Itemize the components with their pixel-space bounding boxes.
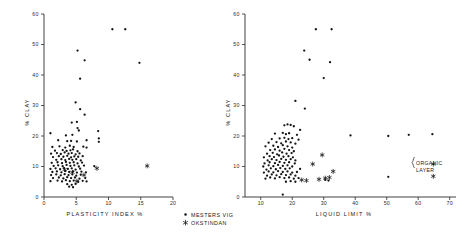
data-point — [138, 62, 140, 64]
organic-layer-annotation: ORGANIC LAYER — [412, 157, 443, 173]
data-point — [58, 145, 60, 147]
data-point — [76, 49, 78, 51]
data-point — [64, 146, 66, 148]
data-point — [263, 171, 265, 173]
data-point — [55, 173, 57, 175]
data-point — [68, 171, 70, 173]
data-point — [280, 142, 282, 144]
data-point — [56, 179, 58, 181]
data-point — [282, 156, 284, 158]
data-point — [97, 130, 99, 132]
data-point — [283, 177, 285, 179]
annotation-brace — [412, 157, 415, 168]
x-ticks-right: 10203040506070 — [258, 197, 453, 206]
data-point — [286, 164, 288, 166]
x-tick-label: 10 — [105, 200, 111, 206]
data-point — [124, 28, 126, 30]
data-point — [305, 178, 309, 182]
data-point — [80, 174, 82, 176]
y-tick-label: 40 — [32, 72, 38, 78]
y-tick-label: 40 — [233, 72, 239, 78]
data-point — [111, 28, 113, 30]
data-point — [323, 176, 327, 180]
data-point — [267, 142, 269, 144]
data-point — [53, 165, 55, 167]
data-point — [290, 180, 292, 182]
data-point — [98, 141, 100, 143]
data-point — [76, 127, 78, 129]
data-point — [288, 161, 290, 163]
data-point — [85, 139, 87, 141]
data-point — [60, 171, 62, 173]
data-point — [78, 152, 80, 154]
y-tick-label: 10 — [233, 163, 239, 169]
data-point — [56, 152, 58, 154]
data-point — [294, 162, 296, 164]
data-point — [286, 145, 288, 147]
panel-plasticity-index: 0102030405060 05101520 % CLAY PLASTICITY… — [0, 0, 234, 238]
data-point — [66, 155, 68, 157]
y-tick-label: 30 — [32, 102, 38, 108]
data-point — [285, 140, 287, 142]
data-point — [66, 176, 68, 178]
data-point — [71, 152, 73, 154]
annotation-line2: LAYER — [416, 167, 434, 173]
data-point — [79, 167, 81, 169]
data-point — [287, 155, 289, 157]
data-point — [60, 174, 62, 176]
data-point — [73, 179, 75, 181]
data-point — [297, 177, 299, 179]
data-point — [274, 148, 276, 150]
data-point — [78, 129, 80, 131]
data-point — [70, 140, 72, 142]
data-point — [71, 134, 73, 136]
plot-plasticity-index: 0102030405060 05101520 % CLAY PLASTICITY… — [0, 0, 234, 238]
data-point — [286, 170, 288, 172]
data-point — [271, 138, 273, 140]
data-point — [83, 114, 85, 116]
data-point — [274, 132, 276, 134]
y-tick-label: 50 — [233, 41, 239, 47]
data-point — [285, 174, 287, 176]
data-point — [303, 49, 305, 51]
data-point — [62, 156, 64, 158]
data-point — [50, 153, 52, 155]
figure-root: 0102030405060 05101520 % CLAY PLASTICITY… — [0, 0, 468, 238]
data-point — [281, 151, 283, 153]
data-point — [323, 77, 325, 79]
data-point — [269, 176, 271, 178]
data-point — [50, 174, 52, 176]
data-point — [283, 137, 285, 139]
data-point — [71, 184, 73, 186]
data-point — [60, 158, 62, 160]
y-tick-label: 50 — [32, 41, 38, 47]
data-point — [387, 176, 389, 178]
data-point — [277, 146, 279, 148]
data-point — [71, 159, 73, 161]
data-point — [73, 155, 75, 157]
data-point — [56, 170, 58, 172]
data-point — [70, 156, 72, 158]
data-point — [294, 181, 296, 183]
data-point — [276, 153, 278, 155]
data-point — [272, 171, 274, 173]
data-point — [82, 146, 84, 148]
data-point — [277, 170, 279, 172]
y-tick-label: 0 — [236, 194, 239, 200]
data-point — [291, 171, 293, 173]
x-tick-label: 60 — [415, 200, 421, 206]
data-point — [283, 148, 285, 150]
data-point — [72, 186, 74, 188]
data-point — [70, 177, 72, 179]
data-point — [66, 140, 68, 142]
data-point — [320, 153, 324, 157]
data-point — [288, 149, 290, 151]
plot-liquid-limit: 0102030405060 10203040506070 % CLAY LIQU… — [234, 0, 468, 238]
data-point — [82, 155, 84, 157]
data-point — [69, 149, 71, 151]
data-point — [76, 121, 78, 123]
data-point — [75, 158, 77, 160]
data-point — [287, 138, 289, 140]
data-point — [290, 173, 292, 175]
data-point — [293, 150, 295, 152]
